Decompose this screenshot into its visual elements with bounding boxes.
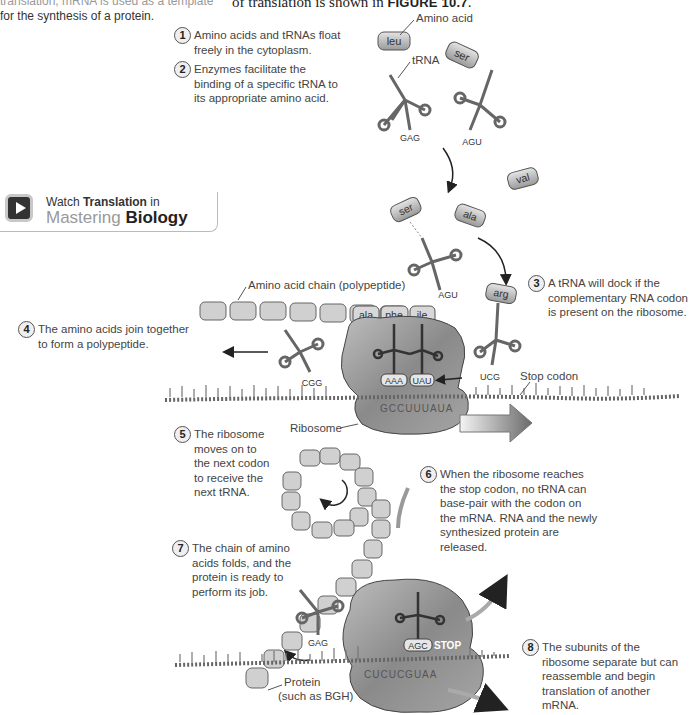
step-text: The chain of amino acids folds, and the … [172,541,292,599]
step-text: The amino acids join together to form a … [18,322,198,351]
arrow-binding [443,148,453,188]
step-number: 2 [174,61,191,78]
subunit-arrow-up [466,588,500,620]
translation-diagram: leu ser Amino acid GAG tRNA AGU val ser … [0,0,696,715]
anticodon-arg: UCG [480,372,500,382]
label-protein: Protein [284,676,320,688]
step-number: 7 [172,540,189,557]
step-number: 8 [522,639,539,656]
anticodon-exiting: CGG [302,378,323,388]
label-amino-acid: Amino acid [416,12,473,24]
step-number: 6 [420,466,437,483]
step-text: When the ribosome reaches the stop codon… [420,467,600,554]
step-5: 5 The ribosome moves on to the next codo… [174,427,274,500]
step-6: 6 When the ribosome reaches the stop cod… [420,467,600,554]
label-protein-example: (such as BGH) [278,690,354,702]
step-3: 3 A tRNA will dock if the complementary … [528,276,696,320]
step-text: Amino acids and tRNAs float freely in th… [174,28,344,57]
step-4: 4 The amino acids join together to form … [18,322,198,351]
trna-bound-ser [409,238,461,290]
amino-acid-ser: ser [444,40,481,70]
amino-acid-arg: arg [485,283,517,305]
trna-gag [379,75,430,130]
mrna-codons-final: CUCUCGUAA [364,669,437,680]
folding-arrow [324,480,347,505]
ribosome-movement-arrow [460,404,532,442]
step-1: 1 Amino acids and tRNAs float freely in … [174,28,344,57]
trna-exiting [280,330,323,372]
step-8: 8 The subunits of the ribosome separate … [522,640,682,713]
anticodon-exiting-final: GAG [308,638,328,648]
step-text: Enzymes facilitate the binding of a spec… [174,62,339,106]
stop-label: STOP [434,640,461,651]
label-ribosome: Ribosome [290,422,342,434]
release-arrow-up [398,488,408,528]
mrna-codons: GCCUUUAUA [380,403,453,414]
step-number: 4 [18,321,35,338]
arrow-docking [478,238,506,280]
trna-arg [475,303,520,365]
anticodon-bound-ser: AGU [438,290,458,300]
svg-text:leu: leu [387,35,402,47]
amino-acid-ala: ala [453,202,487,228]
label-trna: tRNA [412,54,440,66]
label-stop-codon: Stop codon [520,370,578,382]
anticodon-a-site: UAU [412,376,431,386]
amino-acid-leu: leu [378,32,410,50]
amino-acid-ser-2: ser [389,196,423,224]
step-text: The subunits of the ribosome separate bu… [522,640,682,713]
step-number: 1 [174,27,191,44]
label-polypeptide: Amino acid chain (polypeptide) [248,279,405,291]
step-text: A tRNA will dock if the complementary RN… [528,276,696,320]
anticodon-final-site: AGC [408,641,428,651]
anticodon-gag: GAG [400,133,420,143]
amino-acid-val: val [506,166,539,190]
anticodon-agu: AGU [462,137,482,147]
step-2: 2 Enzymes facilitate the binding of a sp… [174,62,339,106]
anticodon-p-site: AAA [385,376,403,386]
step-7: 7 The chain of amino acids folds, and th… [172,541,292,599]
step-number: 5 [174,426,191,443]
trna-agu [455,70,505,130]
step-number: 3 [528,275,545,292]
